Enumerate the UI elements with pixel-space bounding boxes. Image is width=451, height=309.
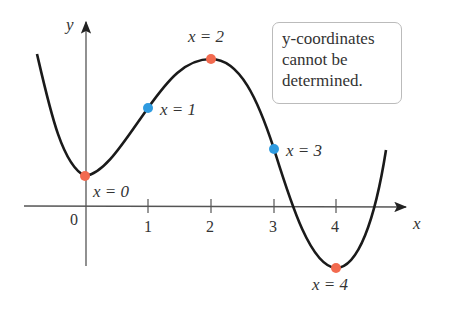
point-x1 — [143, 103, 153, 113]
x-axis — [24, 206, 406, 207]
origin-label: 0 — [70, 212, 78, 228]
tick-label-4: 4 — [331, 219, 339, 235]
point-x2 — [206, 54, 216, 64]
point-label-x4: x = 4 — [312, 276, 348, 293]
annotation-line-1: y-coordinates — [282, 28, 392, 49]
point-x4 — [331, 263, 341, 273]
annotation-line-3: determined. — [282, 70, 392, 91]
point-label-x2: x = 2 — [188, 28, 224, 45]
point-label-x3: x = 3 — [286, 142, 322, 159]
point-label-x1: x = 1 — [160, 101, 196, 118]
point-x0 — [80, 171, 90, 181]
annotation-line-2: cannot be — [282, 49, 392, 70]
point-label-x0: x = 0 — [93, 183, 129, 200]
tick-label-3: 3 — [269, 219, 277, 235]
x-axis-label: x — [413, 215, 421, 232]
point-x3 — [269, 144, 279, 154]
annotation-box: y-coordinates cannot be determined. — [272, 22, 402, 104]
tick-label-2: 2 — [206, 219, 214, 235]
tick-label-1: 1 — [144, 219, 152, 235]
y-axis-label: y — [66, 16, 74, 33]
